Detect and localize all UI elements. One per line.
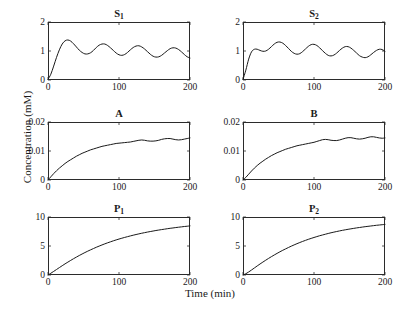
panel-title-main: B: [310, 108, 317, 119]
plot-curve-s2: [243, 22, 385, 80]
panel-title-sub: 2: [315, 12, 319, 21]
plot-panel-p1: P1 05100100200: [48, 217, 190, 275]
y-tick-label: 0: [235, 270, 240, 280]
panel-title-s1: S1: [48, 8, 190, 19]
x-tick-label: 0: [241, 182, 246, 192]
panel-title-sub: 1: [120, 12, 124, 21]
x-tick-label: 200: [183, 182, 197, 192]
y-tick-label: 0.02: [28, 117, 45, 127]
y-tick-label: 0: [40, 175, 45, 185]
plot-curve-s1: [48, 22, 190, 80]
panel-title-main: A: [115, 108, 123, 119]
y-tick-label: 10: [231, 212, 241, 222]
panel-title-b: B: [243, 108, 385, 119]
plot-panel-p2: P2 05100100200: [243, 217, 385, 275]
x-tick-label: 100: [112, 182, 126, 192]
x-tick-label: 100: [112, 82, 126, 92]
x-tick-label: 100: [307, 82, 321, 92]
x-tick-label: 200: [183, 277, 197, 287]
y-tick-label: 5: [235, 241, 240, 251]
y-tick-label: 1: [235, 46, 240, 56]
y-tick-label: 5: [40, 241, 45, 251]
y-tick-label: 1: [40, 46, 45, 56]
plot-panel-s1: S1 0120100200: [48, 22, 190, 80]
y-tick-label: 2: [40, 17, 45, 27]
y-tick-label: 10: [36, 212, 46, 222]
x-axis-label: Time (min): [140, 287, 280, 299]
y-tick-label: 0: [235, 175, 240, 185]
panel-title-p2: P2: [243, 203, 385, 214]
x-tick-label: 100: [112, 277, 126, 287]
plot-panel-s2: S2 0120100200: [243, 22, 385, 80]
panel-title-sub: 2: [315, 207, 319, 216]
plot-curve-b: [243, 122, 385, 180]
x-tick-label: 0: [46, 82, 51, 92]
panel-title-sub: 1: [120, 207, 124, 216]
panel-title-s2: S2: [243, 8, 385, 19]
plot-curve-p2: [243, 217, 385, 275]
y-tick-label: 0.01: [223, 146, 240, 156]
y-tick-label: 2: [235, 17, 240, 27]
figure-panel-grid: Concentration (mM) Time (min) S1 0120100…: [0, 0, 394, 309]
plot-panel-b: B 00.010.020100200: [243, 122, 385, 180]
x-tick-label: 0: [241, 82, 246, 92]
x-tick-label: 200: [378, 277, 392, 287]
y-tick-label: 0: [40, 75, 45, 85]
x-tick-label: 0: [46, 277, 51, 287]
x-tick-label: 200: [183, 82, 197, 92]
y-tick-label: 0: [40, 270, 45, 280]
plot-curve-p1: [48, 217, 190, 275]
y-tick-label: 0.01: [28, 146, 45, 156]
y-tick-label: 0: [235, 75, 240, 85]
x-tick-label: 0: [241, 277, 246, 287]
x-tick-label: 200: [378, 82, 392, 92]
x-tick-label: 100: [307, 182, 321, 192]
x-tick-label: 200: [378, 182, 392, 192]
y-tick-label: 0.02: [223, 117, 240, 127]
plot-curve-a: [48, 122, 190, 180]
plot-panel-a: A 00.010.020100200: [48, 122, 190, 180]
panel-title-a: A: [48, 108, 190, 119]
panel-title-p1: P1: [48, 203, 190, 214]
y-axis-label: Concentration (mM): [21, 67, 33, 207]
x-tick-label: 0: [46, 182, 51, 192]
x-tick-label: 100: [307, 277, 321, 287]
